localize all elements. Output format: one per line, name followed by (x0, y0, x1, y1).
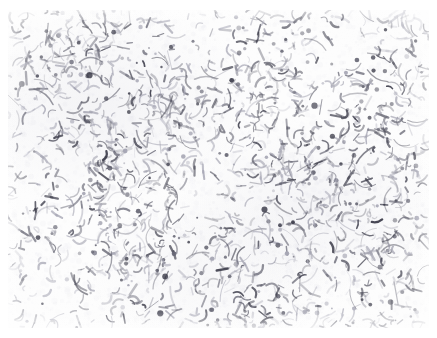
bacteria-smear-canvas (8, 10, 429, 328)
microscope-field-of-view (8, 10, 429, 328)
micrograph-description: Bright-field micrograph of a stained bac… (0, 0, 1, 1)
micrograph-viewport: Bright-field micrograph of a stained bac… (0, 0, 437, 338)
micrograph-subject-label: bacterial smear (0, 0, 1, 1)
